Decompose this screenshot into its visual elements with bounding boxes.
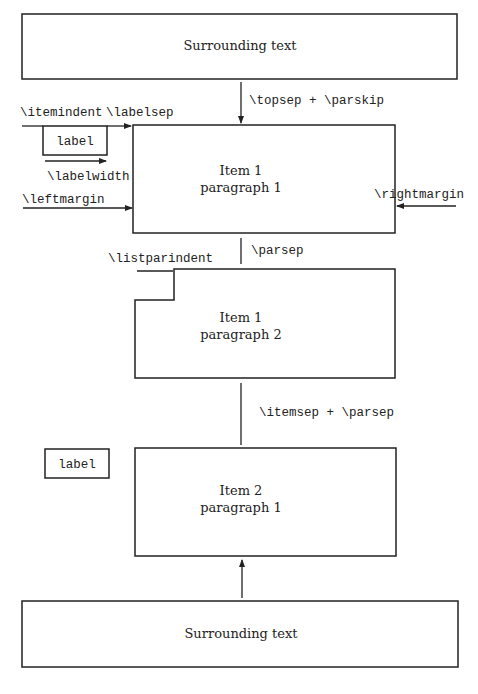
item2-paragraph1-box: Item 2 paragraph 1 <box>135 448 396 556</box>
itemindent-label: \itemindent <box>20 106 103 120</box>
item2-par1-line2: paragraph 1 <box>200 500 281 515</box>
rightmargin-label: \rightmargin <box>374 188 464 202</box>
item2-par1-line1: Item 2 <box>220 483 263 498</box>
topsep-parskip-dimension: \topsep + \parskip <box>241 82 384 123</box>
item1-par1-line1: Item 1 <box>220 163 263 178</box>
labelsep-label: \labelsep <box>106 106 174 120</box>
label-box-item2: label <box>45 449 109 478</box>
parsep-label: \parsep <box>251 244 304 258</box>
item1-par2-line2: paragraph 2 <box>200 327 281 342</box>
labelwidth-label: \labelwidth <box>47 170 130 184</box>
leftmargin-label: \leftmargin <box>22 193 105 207</box>
listparindent-label: \listparindent <box>108 252 213 266</box>
item1-par2-line1: Item 1 <box>220 310 263 325</box>
surrounding-text-top-label: Surrounding text <box>183 38 297 53</box>
item1-paragraph1-box: Item 1 paragraph 1 <box>133 125 395 233</box>
label-box-item1: label <box>43 126 107 155</box>
itemsep-parsep-label: \itemsep + \parsep <box>259 406 394 420</box>
label-item1-text: label <box>56 135 94 149</box>
surrounding-text-bottom-label: Surrounding text <box>184 626 298 641</box>
list-layout-diagram: Surrounding text \topsep + \parskip \ite… <box>0 0 478 694</box>
surrounding-text-bottom-box: Surrounding text <box>22 601 458 667</box>
item1-paragraph2-box: Item 1 paragraph 2 <box>135 269 395 378</box>
topsep-parskip-label: \topsep + \parskip <box>249 94 384 108</box>
item1-par1-line2: paragraph 1 <box>200 180 281 195</box>
surrounding-text-top-box: Surrounding text <box>22 14 457 79</box>
label-item2-text: label <box>58 458 96 472</box>
